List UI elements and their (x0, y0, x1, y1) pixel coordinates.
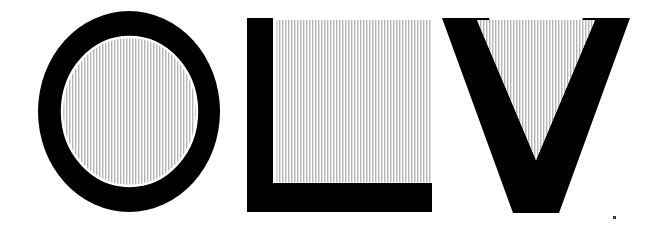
letter-o (38, 11, 220, 212)
scan-speck (613, 216, 616, 219)
olv-logo-graphic (0, 0, 667, 237)
artboard: OLV (0, 0, 667, 237)
letter-l-hatch-panel (277, 20, 433, 183)
